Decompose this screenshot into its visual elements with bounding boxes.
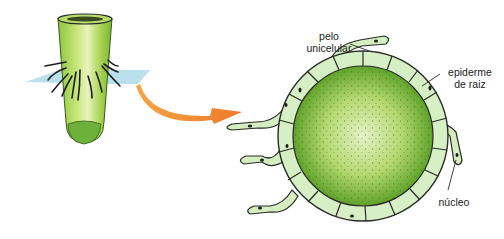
root-hair bbox=[248, 190, 298, 214]
label-nucleo: núcleo bbox=[432, 196, 476, 208]
label-line: unicelular bbox=[302, 42, 356, 54]
arrow-icon bbox=[136, 84, 242, 124]
root-tip-illustration bbox=[25, 14, 150, 144]
root-hair-diagram bbox=[0, 0, 504, 239]
nucleus-leader-line bbox=[448, 160, 456, 190]
label-line: de raiz bbox=[440, 78, 500, 90]
label-line: epiderme bbox=[440, 66, 500, 78]
root-cross-section bbox=[227, 36, 462, 221]
label-pelo-unicelular: pelo unicelular bbox=[302, 30, 356, 54]
label-epiderme-de-raiz: epiderme de raiz bbox=[440, 66, 500, 90]
label-line: pelo bbox=[302, 30, 356, 42]
